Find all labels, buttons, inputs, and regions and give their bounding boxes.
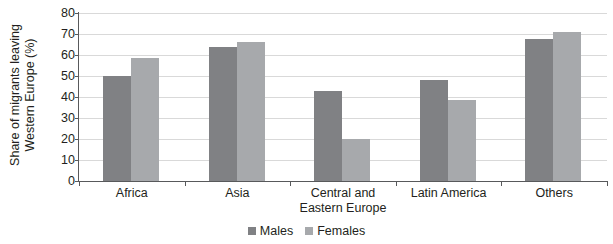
bar-group: [396, 13, 502, 181]
bar-males: [420, 80, 448, 181]
bar-group: [79, 13, 185, 181]
legend-item-males[interactable]: Males: [248, 224, 293, 238]
x-category-label-line: Others: [501, 186, 607, 201]
chart-title-clipped: [0, 0, 613, 3]
y-tick-label: 40: [35, 91, 75, 103]
x-category-label-line: Eastern Europe: [290, 201, 396, 216]
x-tick-mark: [607, 181, 608, 186]
bar-males: [103, 76, 131, 181]
bar-group: [290, 13, 396, 181]
y-tick-label: 70: [35, 28, 75, 40]
y-tick-label: 50: [35, 70, 75, 82]
x-category-label-line: Central and: [290, 186, 396, 201]
legend-swatch-icon: [305, 227, 313, 235]
y-tick-label: 80: [35, 7, 75, 19]
plot-area: [79, 13, 607, 181]
bar-females: [342, 139, 370, 181]
x-category-label: Africa: [79, 186, 185, 201]
bar-males: [209, 47, 237, 181]
y-tick-label: 0: [35, 175, 75, 187]
y-tick-label: 30: [35, 112, 75, 124]
bar-males: [314, 91, 342, 181]
chart-legend: MalesFemales: [0, 224, 613, 238]
legend-label: Males: [260, 224, 293, 238]
bar-females: [448, 100, 476, 181]
bar-group: [501, 13, 607, 181]
bar-females: [131, 58, 159, 181]
y-tick-label: 20: [35, 133, 75, 145]
x-category-label: Central andEastern Europe: [290, 186, 396, 216]
legend-label: Females: [317, 224, 365, 238]
bar-females: [553, 32, 581, 181]
legend-item-females[interactable]: Females: [305, 224, 365, 238]
legend-swatch-icon: [248, 227, 256, 235]
x-category-label-line: Latin America: [396, 186, 502, 201]
y-axis-ticks: 80706050403020100: [33, 13, 75, 181]
x-category-label-line: Africa: [79, 186, 185, 201]
bar-group: [185, 13, 291, 181]
chart-figure: Share of migrants leaving Western Europe…: [0, 0, 613, 244]
x-category-label: Latin America: [396, 186, 502, 201]
x-axis-line: [78, 181, 607, 182]
bar-males: [525, 39, 553, 181]
x-category-label: Others: [501, 186, 607, 201]
x-category-label: Asia: [185, 186, 291, 201]
x-axis-category-labels: AfricaAsiaCentral andEastern EuropeLatin…: [79, 186, 607, 220]
y-tick-label: 10: [35, 154, 75, 166]
x-category-label-line: Asia: [185, 186, 291, 201]
y-axis-title-line-1: Share of migrants leaving: [8, 24, 23, 166]
bar-females: [237, 42, 265, 181]
y-tick-label: 60: [35, 49, 75, 61]
